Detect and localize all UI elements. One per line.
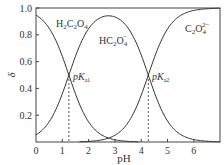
- h2c2o4-label: H2C2O4: [56, 18, 88, 31]
- x-tick-label: 0: [34, 145, 39, 156]
- distribution-chart: 0.20.40.60.81.0 0123456 H2C2O4 HC2O4− C2…: [0, 0, 224, 165]
- pka2-annotation: pKa2: [151, 71, 169, 83]
- y-tick-label: 0.6: [20, 56, 33, 67]
- x-tick-label: 4: [139, 145, 144, 156]
- y-tick-label: 0.8: [20, 29, 33, 40]
- x-tick-label: 1: [60, 145, 65, 156]
- x-tick-label: 2: [86, 145, 91, 156]
- y-axis-title: δ: [5, 72, 17, 78]
- c2o4-label: C2O42−: [185, 21, 209, 36]
- hc2o4-label: HC2O4−: [99, 33, 128, 48]
- pka1-annotation: pKa1: [72, 71, 90, 83]
- x-tick-label: 6: [191, 145, 196, 156]
- y-tick-label: 1.0: [20, 3, 33, 14]
- x-tick-label: 5: [165, 145, 170, 156]
- y-tick-label: 0.2: [20, 110, 33, 121]
- y-tick-label: 0.4: [20, 83, 33, 94]
- x-axis-title: pH: [117, 152, 131, 164]
